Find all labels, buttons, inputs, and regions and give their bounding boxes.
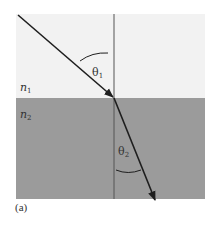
- diagram-canvas: θ1 θ2 n1 n2: [0, 0, 217, 228]
- figure-caption: (a): [15, 201, 27, 213]
- medium-2-region: [16, 98, 205, 199]
- medium-1-region: [16, 14, 205, 98]
- refraction-diagram: θ1 θ2 n1 n2 (a): [0, 0, 217, 228]
